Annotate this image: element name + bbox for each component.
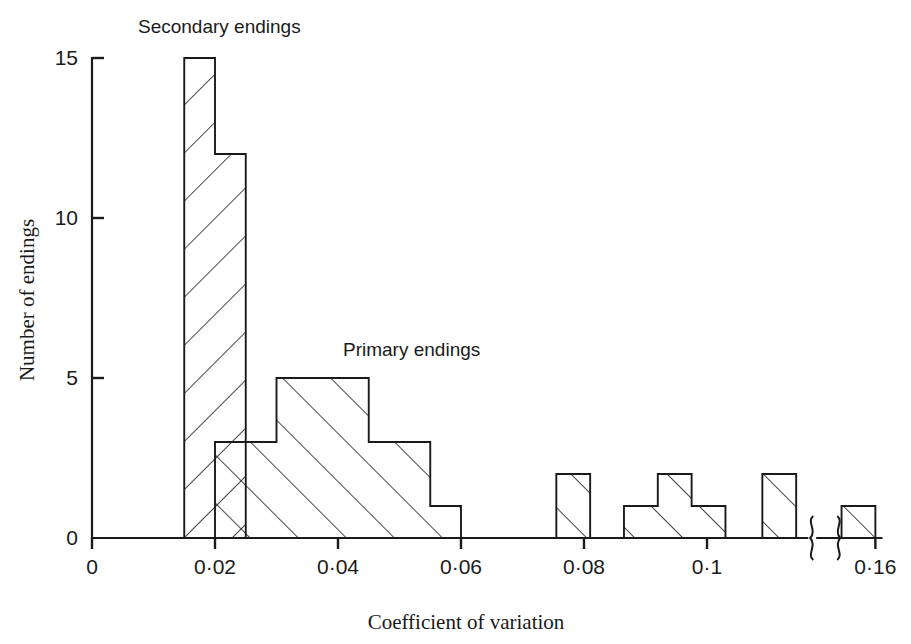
histogram-bar bbox=[277, 378, 369, 538]
series-label: Secondary endings bbox=[138, 16, 301, 37]
x-axis-tick-label: 0·1 bbox=[692, 555, 722, 578]
histogram-bar bbox=[215, 442, 246, 538]
histogram-bar bbox=[658, 474, 692, 538]
x-axis-tick-label: 0·02 bbox=[194, 555, 236, 578]
y-axis-tick-label: 10 bbox=[55, 206, 78, 229]
histogram-bar bbox=[430, 506, 461, 538]
y-axis-tick-label: 5 bbox=[66, 366, 78, 389]
histogram-bar bbox=[246, 442, 277, 538]
x-axis-tick-label: 0·08 bbox=[563, 555, 605, 578]
histogram-bar bbox=[624, 506, 658, 538]
y-axis-title: Number of endings bbox=[15, 219, 39, 381]
histogram-bar bbox=[842, 506, 876, 538]
histogram-bar bbox=[184, 58, 215, 538]
histogram-figure: 00·020·040·060·080·10·16051015 Secondary… bbox=[0, 0, 911, 644]
y-axis-tick-label: 15 bbox=[55, 46, 78, 69]
x-axis-title: Coefficient of variation bbox=[368, 610, 565, 634]
histogram-bar bbox=[369, 442, 431, 538]
histogram-bar bbox=[762, 474, 796, 538]
series-label: Primary endings bbox=[343, 339, 480, 360]
x-axis-tick-label: 0·16 bbox=[854, 555, 896, 578]
x-axis-tick-label: 0 bbox=[86, 555, 98, 578]
bars-layer bbox=[184, 58, 875, 538]
x-axis-tick-label: 0·06 bbox=[440, 555, 482, 578]
histogram-bar bbox=[692, 506, 726, 538]
histogram-bar bbox=[556, 474, 590, 538]
histogram-plot: 00·020·040·060·080·10·16051015 Secondary… bbox=[0, 0, 911, 644]
y-axis-tick-label: 0 bbox=[66, 526, 78, 549]
x-axis-tick-label: 0·04 bbox=[317, 555, 359, 578]
